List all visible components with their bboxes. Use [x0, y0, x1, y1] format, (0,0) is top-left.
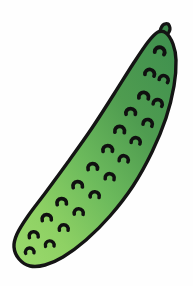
cucumber-illustration	[0, 0, 193, 286]
illustration-canvas: Clip-art illustration of a single green …	[0, 0, 193, 286]
